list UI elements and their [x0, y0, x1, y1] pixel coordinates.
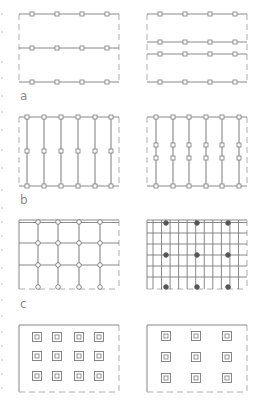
footing-square	[75, 333, 84, 342]
node-square	[55, 46, 59, 50]
node-square	[80, 46, 84, 50]
panel-d-left	[19, 325, 119, 392]
footing-inner-square	[97, 354, 101, 358]
node-square	[233, 80, 237, 84]
footing-square	[162, 332, 171, 341]
footing-square	[33, 333, 42, 342]
footing-square	[75, 352, 84, 361]
footing-square	[223, 353, 232, 362]
footing-inner-square	[164, 376, 168, 380]
footing-square	[33, 352, 42, 361]
node-square	[25, 149, 29, 153]
footing-inner-square	[55, 354, 59, 358]
node-circle	[36, 285, 41, 290]
node-square	[42, 115, 46, 119]
node-circle	[36, 241, 41, 246]
node-square	[76, 115, 80, 119]
node-square	[204, 143, 208, 147]
footing-square	[53, 352, 62, 361]
footing-inner-square	[164, 355, 168, 359]
node-circle-dark	[226, 253, 231, 258]
footing-inner-square	[194, 334, 198, 338]
node-square	[93, 149, 97, 153]
node-square	[233, 40, 237, 44]
footing-square	[53, 372, 62, 381]
node-circle	[36, 263, 41, 268]
node-square	[187, 143, 191, 147]
footing-square	[192, 374, 201, 383]
node-square	[171, 156, 175, 160]
footing-square	[223, 374, 232, 383]
node-circle	[77, 263, 82, 268]
footing-inner-square	[35, 354, 39, 358]
node-square	[109, 115, 113, 119]
node-square	[105, 46, 109, 50]
node-square	[80, 12, 84, 16]
node-square	[154, 184, 158, 188]
footing-square	[33, 372, 42, 381]
node-square	[55, 80, 59, 84]
node-circle-dark	[164, 253, 169, 258]
node-square	[93, 115, 97, 119]
node-square	[154, 156, 158, 160]
node-square	[109, 149, 113, 153]
label-a: a	[20, 89, 27, 103]
node-square	[204, 115, 208, 119]
node-square	[154, 143, 158, 147]
node-circle-dark	[164, 221, 169, 226]
node-square	[208, 12, 212, 16]
node-square	[220, 143, 224, 147]
footing-inner-square	[77, 335, 81, 339]
node-circle	[98, 220, 103, 225]
footing-inner-square	[194, 355, 198, 359]
node-circle	[98, 241, 103, 246]
node-square	[80, 80, 84, 84]
node-square	[42, 149, 46, 153]
node-square	[183, 52, 187, 56]
node-square	[220, 115, 224, 119]
node-circle	[77, 285, 82, 290]
node-circle-dark	[226, 221, 231, 226]
node-square	[30, 80, 34, 84]
footing-square	[162, 353, 171, 362]
node-square	[76, 149, 80, 153]
node-square	[158, 12, 162, 16]
node-square	[187, 115, 191, 119]
node-square	[204, 156, 208, 160]
node-circle	[98, 263, 103, 268]
footing-inner-square	[35, 335, 39, 339]
node-square	[220, 184, 224, 188]
node-circle	[56, 263, 61, 268]
node-circle	[56, 220, 61, 225]
node-circle-dark	[195, 285, 200, 290]
node-circle	[77, 220, 82, 225]
node-square	[25, 184, 29, 188]
label-c: c	[20, 297, 27, 311]
node-square	[59, 184, 63, 188]
node-circle-dark	[164, 285, 169, 290]
node-square	[59, 115, 63, 119]
footing-square	[192, 353, 201, 362]
panel-c-left	[19, 220, 119, 290]
node-square	[171, 115, 175, 119]
node-square	[220, 156, 224, 160]
node-square	[237, 184, 241, 188]
node-square	[105, 12, 109, 16]
node-square	[204, 184, 208, 188]
node-square	[171, 184, 175, 188]
node-square	[59, 149, 63, 153]
panel-b-right	[147, 115, 247, 188]
node-circle	[36, 220, 41, 225]
panel-c-right	[147, 220, 247, 289]
footing-square	[95, 333, 104, 342]
footing-inner-square	[55, 335, 59, 339]
footing-inner-square	[225, 334, 229, 338]
node-circle	[56, 285, 61, 290]
footing-square	[162, 374, 171, 383]
footing-inner-square	[225, 376, 229, 380]
node-circle	[98, 285, 103, 290]
node-square	[183, 12, 187, 16]
footing-inner-square	[225, 355, 229, 359]
node-square	[30, 46, 34, 50]
node-square	[76, 184, 80, 188]
